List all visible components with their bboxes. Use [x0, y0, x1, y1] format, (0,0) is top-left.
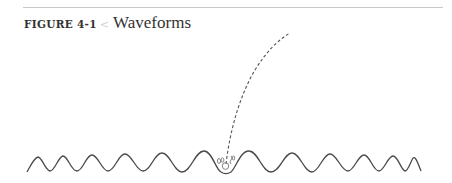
waveform-line: [27, 151, 421, 174]
waveform-diagram: [0, 0, 452, 183]
splash-marks: [217, 156, 234, 169]
dashed-trajectory: [226, 33, 290, 164]
